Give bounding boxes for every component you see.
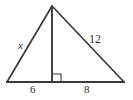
label-base-right-8: 8 [84,84,90,95]
label-right-side-12: 12 [89,33,101,45]
triangle-right-side [52,6,124,82]
right-angle-icon [53,74,61,81]
label-base-left-6: 6 [30,84,36,95]
geometry-figure: x 12 6 8 [0,0,133,100]
triangle-left-side [7,6,52,82]
label-left-side-x: x [18,40,23,51]
